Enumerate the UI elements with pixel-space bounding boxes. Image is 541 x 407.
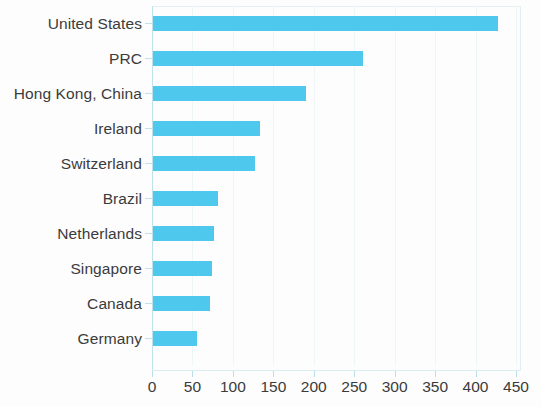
bar <box>153 261 212 276</box>
bar-row: PRC <box>0 41 541 76</box>
x-axis-tick <box>395 371 396 377</box>
bar-chart: United StatesPRCHong Kong, ChinaIrelandS… <box>0 0 541 407</box>
bar-row: Switzerland <box>0 146 541 181</box>
bar <box>153 226 214 241</box>
y-axis-tick <box>145 303 152 304</box>
bar <box>153 16 498 31</box>
bar <box>153 121 260 136</box>
bar-row: Ireland <box>0 111 541 146</box>
x-axis-tick <box>435 371 436 377</box>
y-axis-tick <box>145 198 152 199</box>
bar <box>153 191 218 206</box>
category-label: Germany <box>0 321 142 356</box>
y-axis-tick <box>145 23 152 24</box>
category-label: Ireland <box>0 111 142 146</box>
category-label: Singapore <box>0 251 142 286</box>
x-axis-tick <box>354 371 355 377</box>
category-label: Canada <box>0 286 142 321</box>
category-label: Brazil <box>0 181 142 216</box>
x-axis-tick <box>273 371 274 377</box>
bar-row: Hong Kong, China <box>0 76 541 111</box>
bar-row: Canada <box>0 286 541 321</box>
x-axis-tick <box>152 371 153 377</box>
y-axis-tick <box>145 93 152 94</box>
x-axis-tick <box>516 371 517 377</box>
x-axis-tick <box>233 371 234 377</box>
x-axis-tick <box>192 371 193 377</box>
bar-row: Singapore <box>0 251 541 286</box>
bar-row: United States <box>0 6 541 41</box>
bar <box>153 331 197 346</box>
y-axis-tick <box>145 233 152 234</box>
y-axis-tick <box>145 58 152 59</box>
y-axis-tick <box>145 338 152 339</box>
bar <box>153 51 363 66</box>
bar <box>153 156 255 171</box>
x-axis-tick <box>314 371 315 377</box>
bar-row: Germany <box>0 321 541 356</box>
bar-row: Brazil <box>0 181 541 216</box>
x-axis-ticks <box>0 371 541 378</box>
category-label: Switzerland <box>0 146 142 181</box>
category-label: PRC <box>0 41 142 76</box>
y-axis-tick <box>145 268 152 269</box>
category-label: United States <box>0 6 142 41</box>
category-label: Hong Kong, China <box>0 76 142 111</box>
y-axis-tick <box>145 163 152 164</box>
x-axis-tick-label: 450 <box>491 378 541 396</box>
x-axis-tick <box>476 371 477 377</box>
category-label: Netherlands <box>0 216 142 251</box>
bar-row: Netherlands <box>0 216 541 251</box>
x-axis-tick-labels: 050100150200250300350400450 <box>0 378 541 403</box>
bar <box>153 86 306 101</box>
bar <box>153 296 210 311</box>
y-axis-tick <box>145 128 152 129</box>
